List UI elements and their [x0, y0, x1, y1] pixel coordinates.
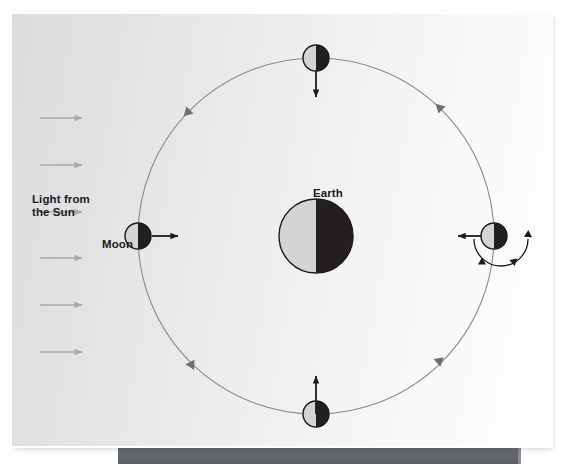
sunlight-rays	[40, 118, 82, 352]
orbit-arrowhead	[432, 354, 444, 366]
moon-bottom-lit-half	[303, 401, 316, 427]
moon-left-dark-half	[138, 223, 151, 249]
earth-body	[279, 199, 353, 273]
base-slab	[118, 443, 518, 464]
moon-top-dark-half	[316, 45, 329, 71]
moon-bottom-dark-half	[316, 401, 329, 427]
earth-dark-half	[316, 199, 353, 273]
illustration-stage: Light from the Sun Moon Earth	[0, 0, 574, 464]
moon-bottom	[303, 376, 329, 427]
earth-lit-half	[279, 199, 316, 273]
moon-right-rotation-arc-arrowhead-left	[476, 258, 486, 268]
moon-right-rotation-arc-arrowhead-top	[524, 230, 532, 237]
moon-right-lit-half	[481, 223, 494, 249]
label-moon: Moon	[102, 238, 133, 251]
orbit-arrowhead	[186, 360, 199, 373]
moon-phases-diagram	[12, 14, 551, 446]
label-earth: Earth	[313, 187, 343, 200]
moon-right-dark-half	[494, 223, 507, 249]
moon-top	[303, 45, 329, 97]
moon-right	[458, 223, 532, 268]
label-light-from-sun: Light from the Sun	[32, 193, 90, 219]
moon-top-lit-half	[303, 45, 316, 71]
diagram-panel: Light from the Sun Moon Earth	[12, 14, 551, 446]
